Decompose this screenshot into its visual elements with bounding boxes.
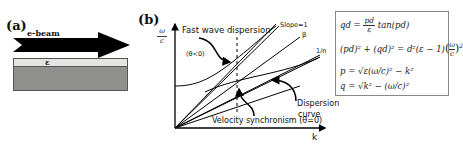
velocity-sync-label: Velocity synchronism (θ=0) [212,116,322,125]
theta-negative-label: (θ<0) [186,50,205,58]
one-over-n-label: 1/n [316,47,326,55]
equation-4: q = √k² − (ω/c)² [340,81,409,91]
equation-2: (pd)² + (qd)² = d²(ε − 1)(ωc)2 [340,41,463,58]
slope-one-label: Slope=1 [280,21,308,29]
equations-box: qd = pd ε tan(pd) (pd)² + (qd)² = d²(ε −… [335,11,449,96]
equation-1: qd = pd ε tan(pd) [340,17,409,34]
x-axis-label: k [312,132,318,142]
beta-label: β [302,31,306,39]
equation-3: p = √ε(ω/c)² − k² [340,66,414,76]
dispersion-label: Dispersion [297,99,339,108]
fast-wave-label: Fast wave dispersion [182,25,271,35]
